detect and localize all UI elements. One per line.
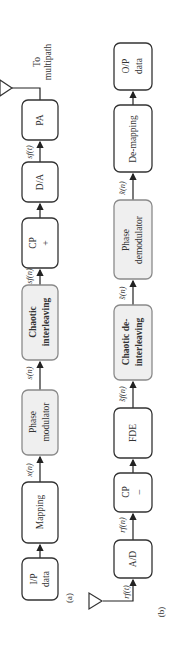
block-phase-demodulator bbox=[114, 200, 152, 279]
caption-a: (a) bbox=[64, 593, 74, 603]
label-plus: + bbox=[41, 240, 51, 245]
label-chaotic: Chaotic bbox=[28, 306, 38, 338]
label-cp-rx: CP bbox=[121, 486, 131, 498]
label-da: D/A bbox=[35, 174, 45, 191]
label-cp: CP bbox=[28, 237, 38, 249]
label-ip: I/P bbox=[29, 573, 39, 584]
label-ip-data: data bbox=[41, 570, 51, 587]
signal-sf-hat: s̃f(n) bbox=[117, 386, 127, 402]
signal-x-n: x(n) bbox=[24, 463, 34, 478]
label-interleaving: interleaving bbox=[41, 297, 51, 346]
signal-s-hat: s̃(n) bbox=[117, 286, 127, 299]
signal-x-hat: x̃(n) bbox=[117, 181, 127, 196]
signal-rf-n: rf(n) bbox=[117, 517, 127, 533]
pa-to-antenna-line bbox=[12, 88, 40, 100]
label-ad: A/D bbox=[128, 551, 138, 568]
label-phase: Phase bbox=[28, 411, 38, 433]
label-fde: FDE bbox=[128, 424, 138, 442]
signal-sf-n: sf(n) bbox=[24, 268, 34, 284]
label-phase-rx: Phase bbox=[121, 229, 131, 251]
block-op-data bbox=[114, 43, 152, 90]
label-minus: – bbox=[134, 489, 144, 495]
signal-s-n: s(n) bbox=[24, 366, 34, 379]
transmitter-chain: I/P data Mapping Phase modulator Chaotic… bbox=[0, 44, 74, 603]
label-modulator: modulator bbox=[41, 402, 51, 442]
label-mapping: Mapping bbox=[35, 495, 45, 530]
signal-sf-t: sf(t) bbox=[24, 145, 34, 159]
tx-antenna-icon bbox=[0, 80, 12, 96]
signal-rf-t: rf(t) bbox=[121, 585, 131, 599]
label-interleaving-rx: interleaving bbox=[134, 317, 144, 366]
label-op: O/P bbox=[121, 59, 131, 74]
label-op-data: data bbox=[134, 57, 144, 74]
label-pa: PA bbox=[35, 114, 45, 125]
block-ip-data bbox=[22, 558, 58, 600]
block-diagram: I/P data Mapping Phase modulator Chaotic… bbox=[0, 0, 179, 665]
label-demodulator: demodulator bbox=[134, 215, 144, 264]
receiver-chain: A/D CP – FDE Chaotic de- interleaving Ph… bbox=[89, 43, 166, 617]
label-de-mapping: De-mapping bbox=[128, 115, 138, 163]
label-chaotic-de: Chaotic de- bbox=[121, 319, 131, 366]
label-multipath: multipath bbox=[43, 44, 53, 81]
caption-b: (b) bbox=[156, 607, 166, 618]
rx-antenna-icon bbox=[89, 593, 102, 609]
label-to: To bbox=[32, 57, 42, 67]
block-chaotic-deinterleaving bbox=[114, 305, 152, 380]
block-cp-remove bbox=[114, 473, 152, 512]
